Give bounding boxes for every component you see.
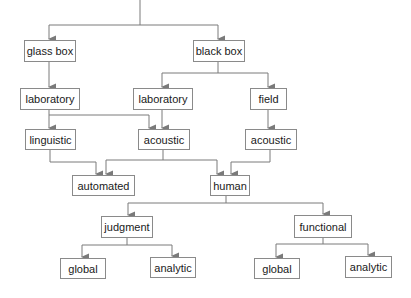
node-acoustic-mid: acoustic xyxy=(138,129,190,150)
node-field: field xyxy=(250,88,287,110)
node-laboratory-mid: laboratory xyxy=(133,88,193,110)
node-global-left: global xyxy=(60,258,106,279)
node-analytic-right: analytic xyxy=(345,256,392,278)
node-black-box: black box xyxy=(193,40,245,62)
node-human: human xyxy=(210,175,250,196)
node-analytic-left: analytic xyxy=(150,257,196,278)
node-linguistic: linguistic xyxy=(25,129,76,150)
node-acoustic-right: acoustic xyxy=(245,129,297,150)
node-judgment: judgment xyxy=(101,216,153,238)
node-automated: automated xyxy=(72,175,135,196)
node-laboratory-left: laboratory xyxy=(20,88,80,110)
node-glass-box: glass box xyxy=(24,40,76,62)
node-global-right: global xyxy=(254,258,300,279)
node-functional: functional xyxy=(294,215,352,238)
